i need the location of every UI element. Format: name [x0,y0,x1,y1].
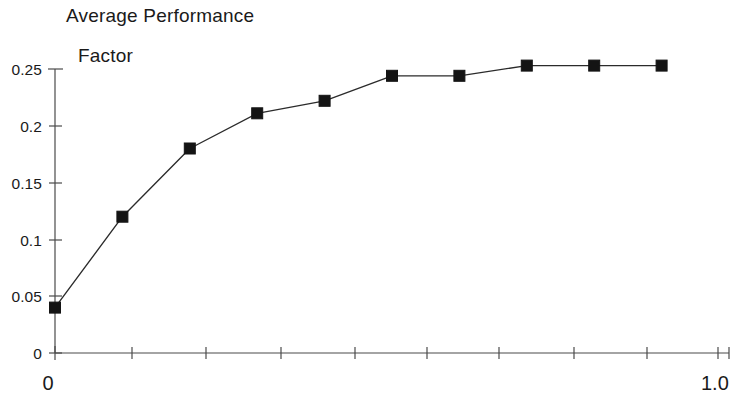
x-tick-label-left: 0 [42,372,53,394]
y-tick-label-0.25: 0.25 [11,61,42,78]
series-line [55,66,662,308]
line-chart: Average Performance Factor 0.25 0.2 0.15… [0,0,733,395]
chart-title-line-1: Average Performance [66,5,254,26]
y-tick-label-0.05: 0.05 [11,288,42,305]
data-point-marker [117,211,128,222]
chart-title-line-2: Factor [78,45,134,66]
y-tick-label-0.1: 0.1 [20,232,42,249]
x-tick-label-right: 1.0 [701,372,729,394]
chart-container: Average Performance Factor 0.25 0.2 0.15… [0,0,733,395]
data-point-marker [252,108,263,119]
series-markers [50,60,668,313]
data-point-marker [454,70,465,81]
data-point-marker [656,60,667,71]
y-tick-label-0: 0 [33,345,42,362]
data-point-marker [184,143,195,154]
y-tick-label-0.15: 0.15 [11,175,42,192]
y-tick-label-0.2: 0.2 [20,118,42,135]
data-point-marker [319,95,330,106]
data-point-marker [589,60,600,71]
data-point-marker [50,302,61,313]
data-point-marker [387,70,398,81]
data-point-marker [521,60,532,71]
